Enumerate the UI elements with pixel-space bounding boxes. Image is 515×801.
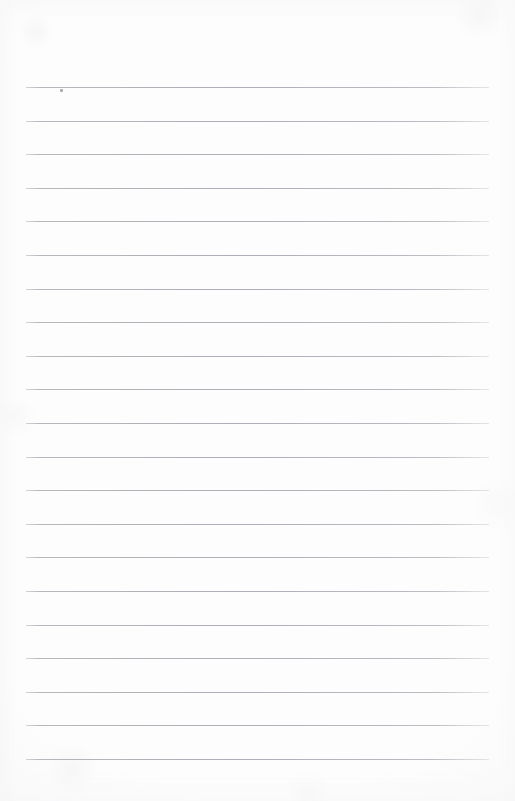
rule-line-6 [26,255,489,256]
rule-line-9 [26,356,489,357]
rule-line-21 [26,759,489,760]
rule-line-1 [26,87,489,88]
rule-line-3 [26,154,489,155]
ink-speck [60,89,63,92]
notebook-page [0,0,515,801]
rule-line-11 [26,423,489,424]
rule-line-19 [26,692,489,693]
rule-line-8 [26,322,489,323]
rule-line-10 [26,389,489,390]
rule-line-16 [26,591,489,592]
rule-line-15 [26,557,489,558]
rule-line-14 [26,524,489,525]
rule-line-13 [26,490,489,491]
rule-line-5 [26,221,489,222]
rule-line-7 [26,289,489,290]
rule-line-20 [26,725,489,726]
rule-line-18 [26,658,489,659]
rule-line-12 [26,457,489,458]
rule-line-17 [26,625,489,626]
rule-line-2 [26,121,489,122]
rule-line-4 [26,188,489,189]
